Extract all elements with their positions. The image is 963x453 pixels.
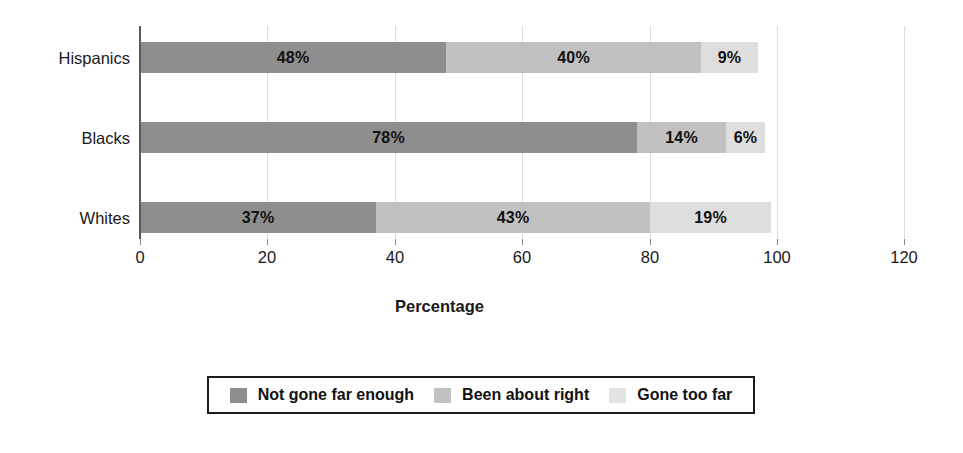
x-axis-title-wrap: Percentage	[0, 297, 963, 316]
x-tick-60	[522, 239, 523, 245]
x-tick-20	[267, 239, 268, 245]
x-tick-0	[140, 239, 141, 245]
category-label-whites: Whites	[0, 208, 130, 228]
bar-segment-gone-too-far: 19%	[650, 202, 771, 233]
legend-item-gone-too-far[interactable]: Gone too far	[599, 386, 742, 404]
bar-segment-been-about-right: 40%	[446, 42, 701, 73]
category-axis-labels: Hispanics Blacks Whites	[0, 0, 130, 453]
legend-swatch-dark-icon	[230, 388, 247, 403]
legend-label: Not gone far enough	[258, 386, 414, 404]
bar-value-label: 37%	[140, 202, 376, 233]
stacked-bar-chart: 48% 40% 9% 78% 14% 6% 37%	[0, 0, 963, 453]
bar-segment-not-gone-far-enough: 78%	[140, 122, 637, 153]
x-tick-40	[395, 239, 396, 245]
bar-value-label: 14%	[637, 122, 726, 153]
category-label-blacks: Blacks	[0, 128, 130, 148]
bar-segment-not-gone-far-enough: 37%	[140, 202, 376, 233]
bar-value-label: 48%	[140, 42, 446, 73]
bar-value-label: 6%	[726, 122, 765, 153]
x-tick-120	[904, 239, 905, 245]
legend-label: Gone too far	[637, 386, 732, 404]
category-label-hispanics: Hispanics	[0, 48, 130, 68]
bar-segment-been-about-right: 14%	[637, 122, 726, 153]
legend-label: Been about right	[462, 386, 589, 404]
x-tick-label-0: 0	[105, 248, 175, 267]
x-axis-title: Percentage	[395, 297, 484, 316]
bar-value-label: 40%	[446, 42, 701, 73]
bar-value-label: 43%	[376, 202, 650, 233]
x-tick-label-80: 80	[615, 248, 685, 267]
x-tick-100	[777, 239, 778, 245]
legend-item-not-gone-far-enough[interactable]: Not gone far enough	[220, 386, 424, 404]
bar-segment-gone-too-far: 9%	[701, 42, 758, 73]
x-tick-label-120: 120	[869, 248, 939, 267]
bar-row-hispanics: 48% 40% 9%	[140, 42, 905, 73]
legend-swatch-mid-icon	[434, 388, 451, 403]
x-tick-label-20: 20	[232, 248, 302, 267]
bar-segment-gone-too-far: 6%	[726, 122, 765, 153]
bar-value-label: 9%	[701, 42, 758, 73]
legend-item-been-about-right[interactable]: Been about right	[424, 386, 599, 404]
x-tick-80	[650, 239, 651, 245]
legend-swatch-light-icon	[609, 388, 626, 403]
bar-row-whites: 37% 43% 19%	[140, 202, 905, 233]
plot-area: 48% 40% 9% 78% 14% 6% 37%	[140, 26, 905, 238]
bar-row-blacks: 78% 14% 6%	[140, 122, 905, 153]
x-tick-label-60: 60	[487, 248, 557, 267]
bar-segment-been-about-right: 43%	[376, 202, 650, 233]
bar-segment-not-gone-far-enough: 48%	[140, 42, 446, 73]
bar-value-label: 19%	[650, 202, 771, 233]
y-axis-line	[139, 26, 141, 239]
legend: Not gone far enough Been about right Gon…	[207, 376, 755, 414]
x-tick-label-40: 40	[360, 248, 430, 267]
x-tick-label-100: 100	[742, 248, 812, 267]
bar-value-label: 78%	[140, 122, 637, 153]
